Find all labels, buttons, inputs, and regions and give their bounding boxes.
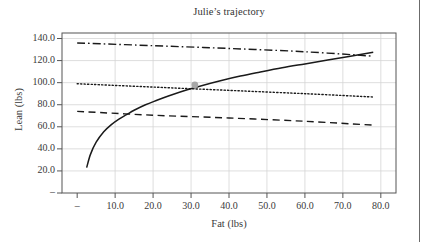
- page-column-divider: [419, 0, 420, 242]
- x-tick-label: 50.0: [247, 200, 287, 211]
- x-tick-label: 20.0: [133, 200, 173, 211]
- y-tick-label: 120.0: [15, 54, 55, 65]
- x-tick-label: 30.0: [171, 200, 211, 211]
- y-tick-label: 20.0: [15, 164, 55, 175]
- series-line-trajectory: [87, 52, 374, 167]
- marker-current-point: [191, 81, 198, 88]
- x-tick-label: –: [57, 200, 97, 211]
- y-axis-label: Lean (lbs): [13, 65, 24, 155]
- y-tick-label: –: [15, 186, 55, 197]
- x-axis-label: Fat (lbs): [62, 218, 396, 229]
- x-tick-label: 70.0: [323, 200, 363, 211]
- series-line-middle-band: [77, 84, 373, 97]
- x-tick-label: 10.0: [95, 200, 135, 211]
- y-tick-label: 140.0: [15, 32, 55, 43]
- data-markers: [191, 81, 198, 88]
- x-tick-label: 40.0: [209, 200, 249, 211]
- series-line-upper-band: [77, 43, 373, 56]
- x-tick-label: 80.0: [361, 200, 401, 211]
- chart-figure: Julie’s trajectory –20.040.060.080.0100.…: [0, 0, 432, 242]
- x-tick-label: 60.0: [285, 200, 325, 211]
